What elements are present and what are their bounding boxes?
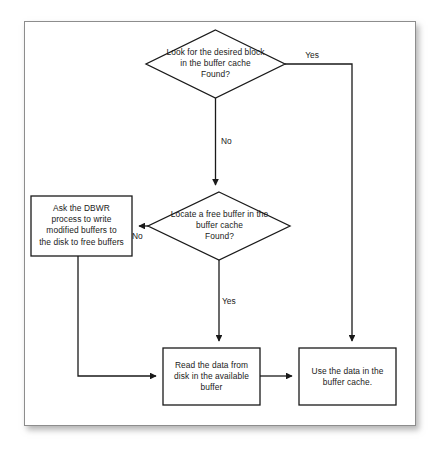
decision-find-block[interactable] xyxy=(146,30,285,98)
process-read-disk[interactable] xyxy=(163,348,260,405)
edge-dbwr-to-read-line xyxy=(78,256,156,376)
decision-free-buffer[interactable] xyxy=(148,192,290,260)
process-dbwr[interactable] xyxy=(31,196,132,256)
edge-found-yes-line xyxy=(285,64,352,341)
diagram-canvas: Look for the desired block in the buffer… xyxy=(0,0,436,451)
process-use-data[interactable] xyxy=(299,348,396,405)
